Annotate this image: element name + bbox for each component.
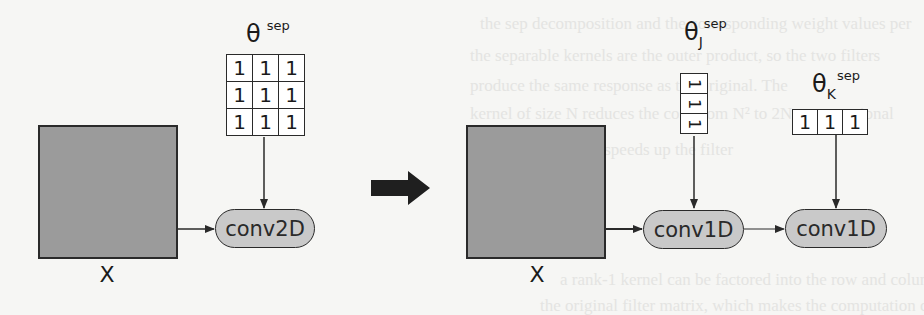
kernel-cell: 1 <box>843 110 868 135</box>
input-tensor-x-left <box>38 125 178 259</box>
conv2d-operation: conv2D <box>215 209 315 248</box>
kernel-cell: 1 <box>279 55 305 82</box>
kernel-cell: 1 <box>227 82 253 109</box>
kernel-cell: 1 <box>253 82 279 109</box>
kernel-k-label: θKsep <box>812 70 860 98</box>
kernel-cell: 1 <box>279 82 305 109</box>
kernel-cell: 1 <box>227 55 253 82</box>
kernel-cell: 1 <box>681 74 708 94</box>
transform-arrow-icon <box>371 171 430 205</box>
kernel-j-label: θJsep <box>684 18 727 46</box>
kernel-j-column-vector: 1 1 1 <box>680 73 708 134</box>
kernel-cell: 1 <box>681 114 708 134</box>
kernel-cell: 1 <box>681 94 708 114</box>
input-label-right: X <box>529 262 544 287</box>
kernel-2d-label: θsep <box>246 20 290 48</box>
kernel-k-row-vector: 1 1 1 <box>792 109 868 135</box>
kernel-cell: 1 <box>227 109 253 136</box>
kernel-2d-matrix: 1 1 1 1 1 1 1 1 1 <box>226 54 305 136</box>
input-label-left: X <box>99 262 114 287</box>
input-tensor-x-right <box>466 125 606 259</box>
kernel-cell: 1 <box>793 110 818 135</box>
kernel-cell: 1 <box>253 55 279 82</box>
conv1d-operation-first: conv1D <box>643 210 744 249</box>
conv1d-operation-second: conv1D <box>785 209 887 248</box>
kernel-cell: 1 <box>253 109 279 136</box>
kernel-cell: 1 <box>818 110 843 135</box>
kernel-cell: 1 <box>279 109 305 136</box>
